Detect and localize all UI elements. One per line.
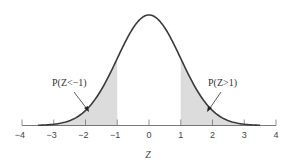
- arrow-left-icon: [74, 92, 89, 112]
- x-axis-ticks: −4−3−2−101234: [15, 120, 279, 140]
- x-tick-label: 0: [146, 130, 151, 140]
- x-tick-label: 1: [178, 130, 183, 140]
- annotation-right-tail: P(Z>1): [208, 77, 237, 89]
- x-tick-label: −2: [78, 130, 88, 140]
- arrow-right-icon: [207, 92, 221, 112]
- normal-distribution-chart: −4−3−2−101234 Z P(Z<−1) P(Z>1): [0, 0, 288, 163]
- x-tick-label: −3: [47, 130, 57, 140]
- x-tick-label: 4: [273, 130, 278, 140]
- left-tail-shaded-region: [38, 58, 117, 125]
- x-axis-label: Z: [145, 149, 151, 160]
- annotation-left-tail: P(Z<−1): [52, 77, 87, 89]
- right-tail-shaded-region: [181, 58, 260, 125]
- x-tick-label: 3: [242, 130, 247, 140]
- x-tick-label: −1: [110, 130, 120, 140]
- x-tick-label: 2: [210, 130, 215, 140]
- density-curve: [38, 15, 260, 125]
- x-tick-label: −4: [15, 130, 25, 140]
